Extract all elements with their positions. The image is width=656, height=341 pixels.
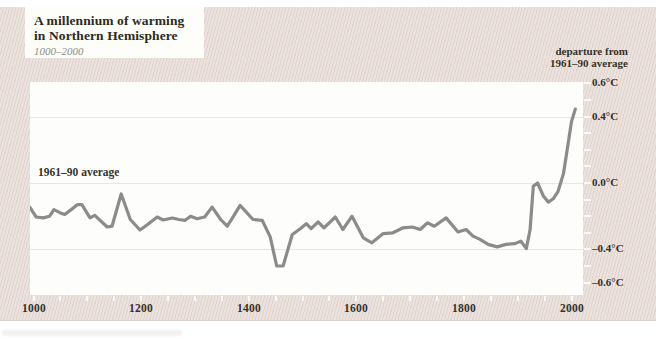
x-axis-tick [355, 296, 357, 301]
title-box: A millennium of warming in Northern Hemi… [25, 7, 204, 58]
y-axis-title-line2: 1961–90 average [550, 58, 628, 70]
temperature-line-chart [30, 82, 583, 295]
baseline-label: 1961–90 average [38, 166, 119, 178]
y-axis-tick [584, 215, 591, 217]
figure-subtitle: 1000–2000 [34, 45, 204, 57]
x-axis-tick [140, 296, 142, 301]
x-axis-label-1600: 1600 [344, 302, 368, 314]
y-axis-tick [584, 265, 591, 267]
y-axis-tick [584, 132, 591, 134]
x-axis-tick [490, 296, 492, 301]
y-axis-tick [584, 99, 591, 101]
plot-area: 1961–90 average [30, 82, 583, 295]
x-axis-tick [113, 296, 115, 301]
x-axis-tick [86, 296, 88, 301]
x-axis-tick [409, 296, 411, 301]
x-axis-tick [167, 296, 169, 301]
y-axis-label-0.6: 0.6°C [592, 76, 618, 88]
x-axis-label-1400: 1400 [237, 302, 261, 314]
x-axis-tick [248, 296, 250, 301]
y-axis-tick [584, 165, 591, 167]
y-axis-label-0: 0.0°C [592, 176, 618, 188]
x-axis-tick [33, 296, 35, 301]
x-axis-tick [328, 296, 330, 301]
x-axis-tick [463, 296, 465, 301]
x-axis-label-1800: 1800 [452, 302, 476, 314]
x-axis-tick [302, 296, 304, 301]
y-axis-tick [584, 282, 591, 284]
y-axis-tick [584, 116, 591, 118]
faded-caption-strip [2, 330, 182, 336]
x-axis-tick [517, 296, 519, 301]
y-axis-title-line1: departure from [550, 46, 628, 58]
y-axis-label-0.4: 0.4°C [592, 110, 618, 122]
x-axis-tick [382, 296, 384, 301]
y-axis-tick [584, 149, 591, 151]
x-axis-tick [59, 296, 61, 301]
x-axis-label-1000: 1000 [22, 302, 46, 314]
x-axis-tick [544, 296, 546, 301]
y-axis-tick [584, 199, 591, 201]
y-axis-tick [584, 182, 591, 184]
figure-title-line1: A millennium of warming [34, 13, 204, 28]
x-axis-tick [571, 296, 573, 301]
y-axis-tick [584, 232, 591, 234]
x-axis-label-2000: 2000 [560, 302, 584, 314]
figure-title-line2: in Northern Hemisphere [34, 28, 204, 43]
x-axis-tick [436, 296, 438, 301]
x-axis-label-1200: 1200 [129, 302, 153, 314]
y-axis-title: departure from 1961–90 average [550, 46, 628, 69]
figure-canvas: A millennium of warming in Northern Hemi… [0, 0, 656, 341]
y-axis-tick [584, 82, 591, 84]
x-axis-tick [194, 296, 196, 301]
y-axis-label--0.6: –0.6°C [592, 276, 624, 288]
x-axis-tick [221, 296, 223, 301]
y-axis-label--0.4: –0.4°C [592, 242, 624, 254]
temperature-anomaly-line [30, 109, 575, 266]
y-axis-tick [584, 248, 591, 250]
x-axis-tick [275, 296, 277, 301]
